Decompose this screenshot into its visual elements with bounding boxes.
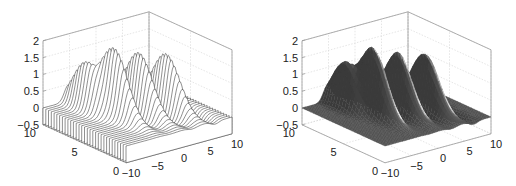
figure-canvas: −0.500.511.52−10−505100510 −0.500.511.52… (0, 0, 516, 186)
x-tick-label: 10 (231, 138, 243, 150)
z-tick-label: 0.5 (24, 85, 39, 97)
x-tick-label: 0 (440, 152, 446, 164)
y-tick-label: 0 (372, 165, 378, 177)
x-tick-label: −5 (151, 160, 164, 172)
y-tick-label: 5 (71, 146, 77, 158)
x-tick-label: 10 (490, 138, 502, 150)
z-tick-label: 0.5 (283, 85, 298, 97)
z-tick-label: 1.5 (24, 52, 39, 64)
x-tick-label: 5 (207, 145, 213, 157)
z-tick-label: 2 (292, 35, 298, 47)
z-tick-label: 1.5 (283, 52, 298, 64)
x-tick-label: −10 (381, 167, 400, 179)
y-tick-label: 0 (113, 165, 119, 177)
figure: −0.500.511.52−10−505100510 −0.500.511.52… (0, 0, 516, 186)
x-tick-label: −10 (122, 167, 141, 179)
z-tick-label: 0 (33, 102, 39, 114)
y-tick-label: 10 (24, 127, 36, 139)
z-tick-label: 2 (33, 35, 39, 47)
z-tick-label: 1 (33, 68, 39, 80)
x-tick-label: 0 (181, 152, 187, 164)
z-tick-label: 0 (292, 102, 298, 114)
waterfall-plot: −0.500.511.52−10−505100510 (17, 12, 243, 179)
surface-mesh (302, 47, 491, 146)
x-tick-label: 5 (466, 145, 472, 157)
surface-plot: −0.500.511.52−10−505100510 (276, 12, 502, 179)
z-tick-label: 1 (292, 68, 298, 80)
y-tick-label: 10 (283, 127, 295, 139)
y-tick-label: 5 (330, 146, 336, 158)
x-tick-label: −5 (410, 160, 423, 172)
